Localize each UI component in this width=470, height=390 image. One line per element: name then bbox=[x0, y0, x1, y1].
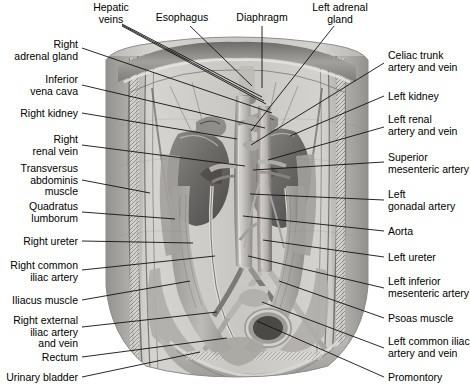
label-left-adrenal-gland: Left adrenal gland bbox=[312, 2, 367, 25]
label-left-ureter: Left ureter bbox=[388, 252, 436, 264]
anatomy-figure: Hepatic veinsEsophagusDiaphragmLeft adre… bbox=[0, 0, 470, 390]
label-transversus-abdominis-muscle: Transversus abdominis muscle bbox=[21, 163, 78, 198]
label-aorta: Aorta bbox=[388, 226, 413, 238]
label-urinary-bladder: Urinary bladder bbox=[6, 372, 78, 384]
label-right-common-iliac-artery: Right common iliac artery bbox=[10, 260, 78, 283]
label-rectum: Rectum bbox=[42, 352, 78, 364]
label-left-kidney: Left kidney bbox=[388, 91, 439, 103]
label-quadratus-lumborum: Quadratus lumborum bbox=[29, 201, 78, 224]
label-right-adrenal-gland: Right adrenal gland bbox=[14, 39, 78, 62]
label-right-renal-vein: Right renal vein bbox=[32, 134, 78, 157]
label-left-common-iliac-artery-and-vein: Left common iliac artery and vein bbox=[388, 336, 470, 359]
label-right-kidney: Right kidney bbox=[20, 108, 78, 120]
label-psoas-muscle: Psoas muscle bbox=[388, 313, 453, 325]
label-left-inferior-mesenteric-artery: Left inferior mesenteric artery bbox=[388, 276, 469, 299]
label-left-gonadal-artery: Left gonadal artery bbox=[388, 189, 455, 212]
label-esophagus: Esophagus bbox=[156, 12, 209, 24]
label-diaphragm: Diaphragm bbox=[236, 12, 287, 24]
label-hepatic-veins: Hepatic veins bbox=[93, 2, 129, 25]
label-superior-mesenteric-artery: Superior mesenteric artery bbox=[388, 152, 469, 175]
label-inferior-vena-cava: Inferior vena cava bbox=[30, 74, 78, 97]
label-celiac-trunk-artery-and-vein: Celiac trunk artery and vein bbox=[388, 50, 457, 73]
label-left-renal-artery-and-vein: Left renal artery and vein bbox=[388, 114, 457, 137]
anatomy-illustration bbox=[100, 36, 374, 378]
label-promontory: Promontory bbox=[388, 372, 442, 384]
label-iliacus-muscle: Iliacus muscle bbox=[12, 295, 78, 307]
label-right-external-iliac-artery-and-vein: Right external iliac artery and vein bbox=[13, 315, 78, 350]
label-right-ureter: Right ureter bbox=[23, 236, 78, 248]
